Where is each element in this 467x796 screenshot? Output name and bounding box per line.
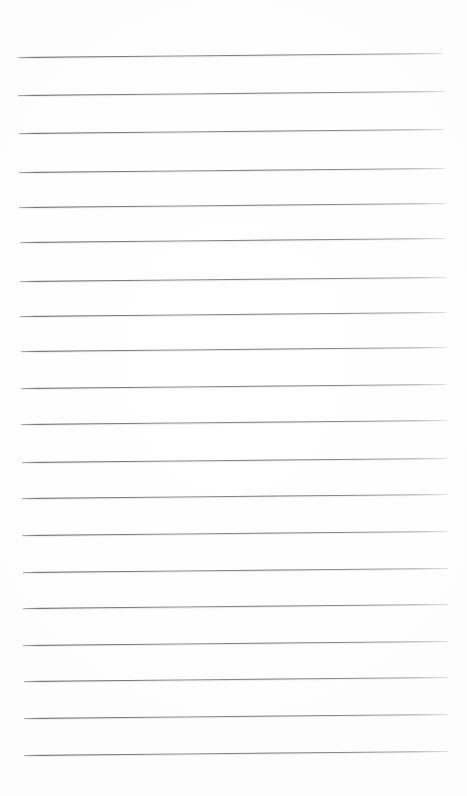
rule-line [21,420,447,425]
rule-line [20,277,446,282]
rule-line [21,347,446,352]
rule-line [18,91,444,96]
rule-line [20,312,446,317]
ruled-lines-layer [0,0,467,796]
rule-line [22,494,447,499]
rule-line [21,384,446,389]
rule-line [19,203,445,208]
notebook-page [0,0,467,796]
rule-line [23,641,448,646]
rule-line [24,751,448,756]
rule-line [22,531,447,536]
rule-line [22,458,447,463]
rule-line [24,677,448,682]
rule-line [23,568,448,573]
rule-line [24,714,448,719]
rule-line [23,604,448,609]
rule-line [19,129,444,134]
rule-line [20,238,445,243]
rule-line [19,168,445,173]
rule-line [18,53,443,58]
